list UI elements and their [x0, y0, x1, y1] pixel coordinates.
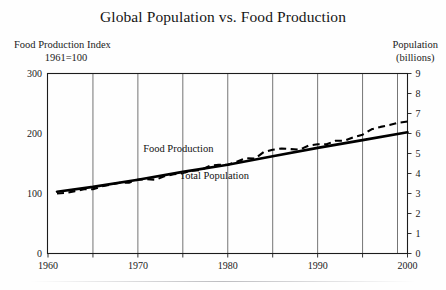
svg-text:1990: 1990 [308, 260, 328, 271]
svg-text:2: 2 [416, 208, 421, 219]
svg-text:0: 0 [416, 248, 421, 259]
svg-text:2000: 2000 [398, 260, 418, 271]
y-tickmarks-right [408, 74, 412, 254]
plot-area: 19601970198019902000 0100200300 01234567… [0, 0, 446, 290]
svg-text:4: 4 [416, 168, 421, 179]
svg-text:7: 7 [416, 108, 421, 119]
y-tick-labels-right: 0123456789 [416, 68, 421, 259]
svg-text:5: 5 [416, 148, 421, 159]
svg-text:1970: 1970 [128, 260, 148, 271]
svg-text:9: 9 [416, 68, 421, 79]
series-line-total-population [57, 132, 408, 191]
svg-text:3: 3 [416, 188, 421, 199]
gridlines [93, 74, 398, 254]
chart-figure: Global Population vs. Food Production Fo… [0, 0, 446, 290]
svg-text:8: 8 [416, 88, 421, 99]
scan-edge-artifact [30, 281, 416, 282]
svg-text:100: 100 [27, 188, 42, 199]
svg-text:200: 200 [27, 128, 42, 139]
svg-text:0: 0 [37, 248, 42, 259]
svg-text:1: 1 [416, 228, 421, 239]
series-label-total-population: Total Population [179, 170, 249, 181]
svg-text:1980: 1980 [218, 260, 238, 271]
series-label-food-production: Food Production [143, 143, 214, 154]
svg-text:6: 6 [416, 128, 421, 139]
series-line-food-production [57, 122, 408, 194]
x-tickmarks [48, 254, 408, 258]
svg-text:1960: 1960 [38, 260, 58, 271]
x-tick-labels: 19601970198019902000 [38, 260, 418, 271]
svg-text:300: 300 [27, 68, 42, 79]
y-tick-labels-left: 0100200300 [27, 68, 42, 259]
